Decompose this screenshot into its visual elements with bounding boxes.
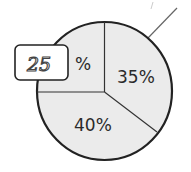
handwritten-answer: 25	[26, 53, 51, 75]
slice-bottom-label: 40%	[74, 115, 112, 135]
pct-sign-label: %	[75, 54, 91, 74]
pen-stroke	[148, 8, 177, 38]
pen-mark	[151, 2, 153, 9]
pie-chart: 25 % 35% 40%	[0, 0, 191, 172]
slice-right-label: 35%	[117, 67, 155, 87]
